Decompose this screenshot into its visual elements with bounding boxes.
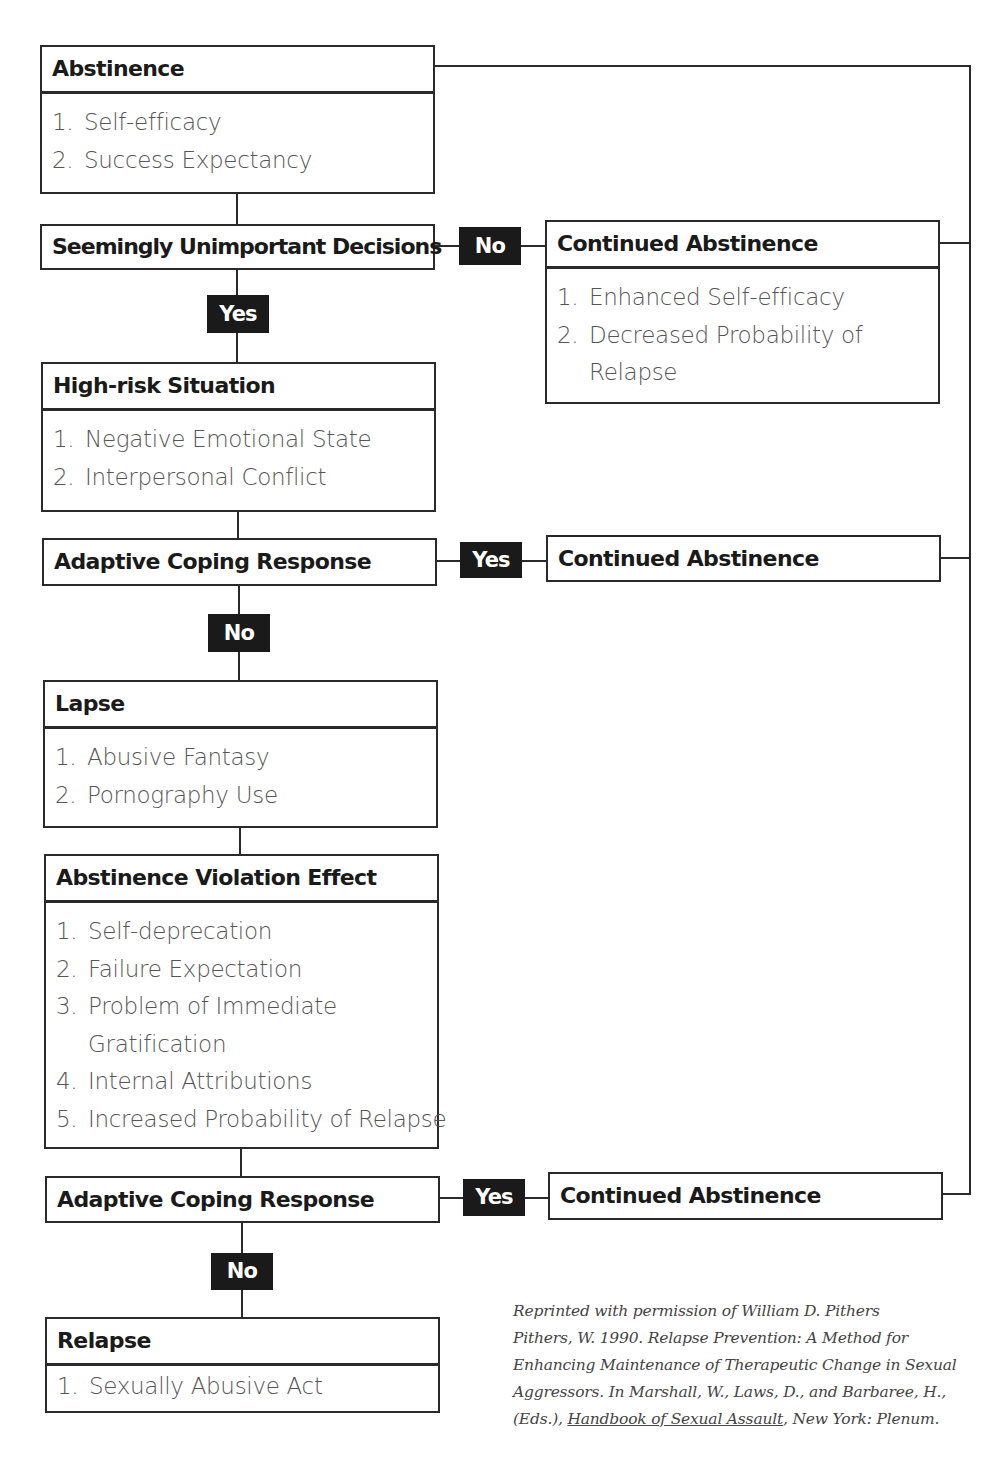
connector-ca1-to-rail [939,242,971,244]
node-continued-abstinence-1: Continued Abstinence 1.Enhanced Self-eff… [545,220,940,404]
node-title: Adaptive Coping Response [44,540,435,584]
tag-yes: Yes [460,542,522,578]
connector-abstinence-to-sud [236,192,238,226]
node-title: Adaptive Coping Response [47,1178,438,1222]
tag-yes: Yes [207,295,269,333]
connector-ca3-to-rail [942,1193,971,1195]
list-item: 1.Negative Emotional State [53,421,424,459]
node-continued-abstinence-3: Continued Abstinence [548,1172,943,1220]
node-items: 1.Self-efficacy 2.Success Expectancy [42,91,433,187]
list-item: 5.Increased Probability of Relapse [56,1101,427,1139]
list-item: 2.Success Expectancy [52,142,423,180]
citation: Reprinted with permission of William D. … [513,1298,983,1433]
list-item: 2.Interpersonal Conflict [53,459,424,497]
node-continued-abstinence-2: Continued Abstinence [546,535,941,582]
node-lapse: Lapse 1.Abusive Fantasy 2.Pornography Us… [43,680,438,828]
node-title: Lapse [45,682,436,726]
list-item: 1.Enhanced Self-efficacy [557,279,928,317]
connector-highrisk-to-coping1 [237,510,239,540]
node-adaptive-coping-response-1: Adaptive Coping Response [42,538,437,586]
node-items: 1.Negative Emotional State 2.Interperson… [43,408,434,504]
node-seemingly-unimportant-decisions: Seemingly Unimportant Decisions [40,224,435,270]
node-title: Continued Abstinence [550,1174,941,1218]
citation-line: Enhancing Maintenance of Therapeutic Cha… [513,1352,983,1379]
node-title: Relapse [47,1319,438,1363]
node-items: 1.Self-deprecation 2.Failure Expectation… [46,900,437,1146]
node-title: Abstinence [42,47,433,91]
node-relapse: Relapse 1.Sexually Abusive Act [45,1317,440,1413]
list-item: 3.Problem of ImmediateGratification [56,988,427,1063]
citation-line: (Eds.), Handbook of Sexual Assault, New … [513,1406,983,1433]
tag-no: No [211,1253,273,1290]
list-item: 1.Self-deprecation [56,913,427,951]
citation-line: Aggressors. In Marshall, W., Laws, D., a… [513,1379,983,1406]
node-title: Continued Abstinence [547,222,938,266]
list-item: 4.Internal Attributions [56,1063,427,1101]
tag-yes: Yes [463,1179,525,1216]
connector-ca2-to-rail [940,557,971,559]
node-title: High-risk Situation [43,364,434,408]
connector-ave-to-coping2 [240,1147,242,1179]
list-item: 1.Sexually Abusive Act [57,1368,428,1406]
node-abstinence-violation-effect: Abstinence Violation Effect 1.Self-depre… [44,854,439,1149]
connector-abstinence-to-rail [434,65,971,67]
tag-no: No [459,227,521,265]
list-item: 2.Decreased Probability ofRelapse [557,317,928,392]
node-items: 1.Abusive Fantasy 2.Pornography Use [45,726,436,822]
connector-lapse-to-ave [239,826,241,856]
list-item: 1.Self-efficacy [52,104,423,142]
node-high-risk-situation: High-risk Situation 1.Negative Emotional… [41,362,436,512]
list-item: 1.Abusive Fantasy [55,739,426,777]
citation-line: Reprinted with permission of William D. … [513,1298,983,1325]
node-adaptive-coping-response-2: Adaptive Coping Response [45,1176,440,1223]
citation-line: Pithers, W. 1990. Relapse Prevention: A … [513,1325,983,1352]
node-items: 1.Enhanced Self-efficacy 2.Decreased Pro… [547,266,938,400]
node-title: Continued Abstinence [548,537,939,581]
node-abstinence: Abstinence 1.Self-efficacy 2.Success Exp… [40,45,435,194]
list-item: 2.Failure Expectation [56,951,427,989]
node-title: Seemingly Unimportant Decisions [42,226,433,268]
connector-right-rail [969,65,971,1195]
book-title: Handbook of Sexual Assault [567,1410,783,1428]
node-title: Abstinence Violation Effect [46,856,437,900]
list-item: 2.Pornography Use [55,777,426,815]
tag-no: No [208,614,270,652]
node-items: 1.Sexually Abusive Act [47,1363,438,1414]
